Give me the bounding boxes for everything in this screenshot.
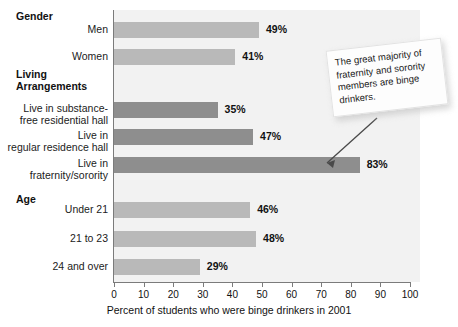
callout-box: The great majority of fraternity and sor…	[326, 38, 449, 118]
binge-drinking-bar-chart: GenderLiving ArrangementsAge Men49%Women…	[0, 0, 458, 327]
callout-text: The great majority of fraternity and sor…	[334, 45, 441, 106]
